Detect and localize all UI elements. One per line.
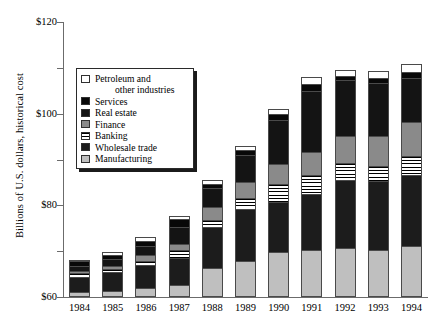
legend-swatch-services (81, 97, 90, 105)
y-tick: $40 (57, 205, 63, 206)
bar-segment-wholesale-trade (103, 273, 122, 292)
legend-item-real-estate[interactable]: Real estate (81, 107, 188, 118)
bar-segment-petroleum-and-other-industries (369, 72, 388, 79)
bar-segment-finance (203, 208, 222, 220)
bar-1988[interactable] (202, 180, 223, 297)
bar-segment-banking (269, 185, 288, 203)
bar-1986[interactable] (135, 237, 156, 297)
bar-segment-banking (336, 164, 355, 181)
bar-segment-banking (402, 157, 421, 175)
bar-segment-finance (170, 245, 189, 252)
bar-1987[interactable] (169, 216, 190, 297)
y-tick: $60 (57, 160, 63, 161)
bar-segment-real-estate (369, 84, 388, 137)
bar-segment-wholesale-trade (302, 195, 321, 251)
y-tick-label: $60 (41, 291, 57, 302)
bar-segment-real-estate (170, 228, 189, 245)
legend-item-manufacturing[interactable]: Manufacturing (81, 153, 188, 164)
bar-segment-real-estate (269, 121, 288, 164)
bar-segment-manufacturing (302, 251, 321, 296)
legend-label-services: Services (95, 96, 188, 107)
bar-segment-manufacturing (336, 249, 355, 296)
bar-segment-petroleum-and-other-industries (402, 65, 421, 73)
bar-segment-banking (170, 251, 189, 259)
legend-swatch-real-estate (81, 109, 90, 117)
y-tick: $100 (57, 68, 63, 69)
legend-item-wholesale-trade[interactable]: Wholesale trade (81, 142, 188, 153)
bar-segment-banking (369, 167, 388, 183)
bar-segment-wholesale-trade (336, 181, 355, 249)
y-axis-title: Billions of U.S. dollars, historical cos… (14, 41, 25, 271)
bar-1993[interactable] (368, 71, 389, 297)
bar-segment-services (170, 220, 189, 228)
bar-segment-manufacturing (369, 251, 388, 296)
y-tick-label: $120 (36, 16, 57, 27)
y-tick: $120 (57, 22, 63, 23)
legend-item-banking[interactable]: Banking (81, 130, 188, 141)
bar-segment-manufacturing (203, 269, 222, 296)
bar-segment-real-estate (203, 189, 222, 208)
chart-figure: Billions of U.S. dollars, historical cos… (0, 0, 435, 328)
x-axis-line (63, 297, 428, 298)
bar-segment-real-estate (136, 247, 155, 256)
legend-item-finance[interactable]: Finance (81, 119, 188, 130)
legend-swatch-wholesale-trade (81, 143, 90, 151)
bar-segment-real-estate (103, 260, 122, 267)
bar-segment-services (302, 85, 321, 92)
bar-segment-manufacturing (103, 292, 122, 296)
bar-segment-manufacturing (402, 247, 421, 296)
bar-segment-banking (236, 199, 255, 210)
bar-segment-wholesale-trade (170, 259, 189, 286)
legend-label-real-estate: Real estate (95, 107, 188, 118)
bar-segment-manufacturing (136, 289, 155, 296)
bar-1990[interactable] (268, 109, 289, 297)
bar-segment-wholesale-trade (203, 228, 222, 269)
legend-label-wholesale-trade: Wholesale trade (95, 142, 188, 153)
legend-swatch-manufacturing (81, 155, 90, 163)
legend-label-manufacturing: Manufacturing (95, 153, 188, 164)
chart-legend: Petroleum andother industriesServicesRea… (76, 68, 194, 169)
bar-segment-banking (302, 176, 321, 195)
bar-1984[interactable] (69, 260, 90, 297)
bar-segment-real-estate (236, 156, 255, 183)
legend-swatch-finance (81, 120, 90, 128)
bar-segment-real-estate (302, 92, 321, 153)
legend-label-banking: Banking (95, 130, 188, 141)
y-tick-label: $80 (41, 200, 57, 211)
y-tick: $80 (57, 114, 63, 115)
y-tick: $0 (57, 297, 63, 298)
bar-segment-finance (336, 137, 355, 164)
bar-segment-banking (203, 221, 222, 229)
bar-1989[interactable] (235, 146, 256, 297)
y-tick: $20 (57, 251, 63, 252)
legend-label-continuation: other industries (95, 84, 188, 95)
bar-segment-manufacturing (170, 286, 189, 296)
bar-segment-real-estate (402, 79, 421, 123)
y-tick-label: $100 (36, 108, 57, 119)
bar-segment-wholesale-trade (402, 176, 421, 248)
bar-segment-wholesale-trade (70, 278, 89, 293)
bar-segment-wholesale-trade (369, 182, 388, 250)
legend-label-petroleum-and-other-industries: Petroleum andother industries (95, 73, 188, 95)
bar-segment-finance (369, 137, 388, 167)
bar-segment-wholesale-trade (136, 266, 155, 289)
bar-segment-services (269, 115, 288, 122)
legend-item-petroleum-and-other-industries[interactable]: Petroleum andother industries (81, 73, 188, 95)
bar-1985[interactable] (102, 252, 123, 297)
legend-item-services[interactable]: Services (81, 96, 188, 107)
bar-segment-finance (269, 165, 288, 185)
legend-label-finance: Finance (95, 119, 188, 130)
legend-swatch-banking (81, 132, 90, 140)
bar-segment-real-estate (336, 81, 355, 137)
bar-segment-finance (402, 123, 421, 157)
bar-segment-finance (302, 153, 321, 176)
bar-1994[interactable] (401, 64, 422, 297)
bar-1991[interactable] (301, 77, 322, 297)
bar-segment-petroleum-and-other-industries (302, 78, 321, 85)
bar-segment-manufacturing (236, 262, 255, 296)
bar-segment-manufacturing (269, 253, 288, 296)
bar-segment-finance (236, 183, 255, 199)
bar-1992[interactable] (335, 70, 356, 297)
x-tick-label-1994: 1994 (388, 302, 434, 313)
bar-segment-wholesale-trade (269, 203, 288, 253)
